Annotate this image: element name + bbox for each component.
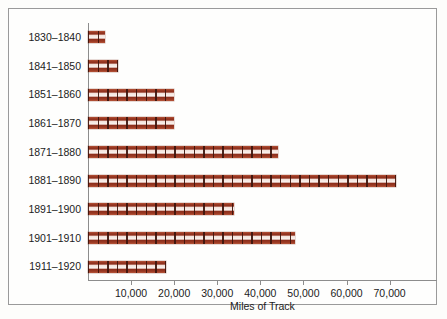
bar-row: 1841–1850: [88, 52, 437, 81]
category-label: 1861–1870: [0, 109, 81, 138]
bar-row: 1830–1840: [88, 23, 437, 52]
category-label: 1841–1850: [0, 52, 81, 81]
category-label: 1871–1880: [0, 138, 81, 167]
chart-figure: 1830–18401841–18501851–18601861–18701871…: [0, 0, 447, 319]
bar-row: 1861–1870: [88, 109, 437, 138]
bar: [88, 175, 396, 187]
x-tick: [217, 280, 218, 285]
x-axis-title: Miles of Track: [88, 300, 437, 312]
bar-row: 1891–1900: [88, 195, 437, 224]
bar-row: 1851–1860: [88, 80, 437, 109]
x-tick: [347, 280, 348, 285]
category-label: 1911–1920: [0, 252, 81, 281]
category-label: 1881–1890: [0, 166, 81, 195]
category-label: 1830–1840: [0, 23, 81, 52]
bar: [88, 203, 234, 215]
category-label: 1851–1860: [0, 80, 81, 109]
category-label: 1891–1900: [0, 195, 81, 224]
bar-row: 1871–1880: [88, 138, 437, 167]
bar: [88, 261, 166, 273]
bar: [88, 89, 174, 101]
bar: [88, 60, 118, 72]
category-label: 1901–1910: [0, 224, 81, 253]
x-tick: [260, 280, 261, 285]
x-tick-label: 70,000: [360, 287, 420, 299]
x-tick: [174, 280, 175, 285]
bar: [88, 146, 278, 158]
bar: [88, 117, 174, 129]
bar: [88, 232, 295, 244]
bar-row: 1911–1920: [88, 252, 437, 281]
chart-frame: 1830–18401841–18501851–18601861–18701871…: [8, 8, 437, 305]
x-tick: [303, 280, 304, 285]
x-tick: [131, 280, 132, 285]
bar-row: 1901–1910: [88, 224, 437, 253]
x-tick: [390, 280, 391, 285]
bar-row: 1881–1890: [88, 166, 437, 195]
bar: [88, 31, 105, 43]
